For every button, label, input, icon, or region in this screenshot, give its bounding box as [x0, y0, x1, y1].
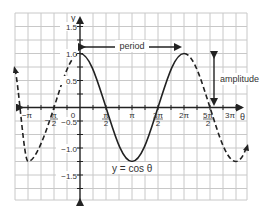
- cosine-graph: period amplitude y θ 1.5 1.0 0.5 −0.5 −1…: [0, 0, 267, 209]
- svg-text:−1.0: −1.0: [61, 145, 77, 154]
- svg-text:−π: −π: [22, 111, 33, 120]
- svg-text:−1.5: −1.5: [61, 172, 77, 181]
- svg-text:2: 2: [156, 119, 161, 128]
- svg-text:2: 2: [206, 119, 211, 128]
- svg-text:π: π: [129, 111, 135, 120]
- x-tick-labels: −π π − 2 0 π 2 π 3π 2 2π 5π 2 3π: [22, 111, 236, 128]
- svg-text:3π: 3π: [225, 111, 235, 120]
- svg-text:0.5: 0.5: [66, 77, 78, 86]
- svg-text:1.0: 1.0: [66, 50, 78, 59]
- x-axis-label: θ: [240, 112, 245, 122]
- svg-text:−: −: [45, 116, 50, 125]
- y-axis-label: y: [71, 13, 76, 23]
- period-label: period: [119, 41, 144, 51]
- svg-text:1.5: 1.5: [66, 23, 78, 32]
- svg-text:2: 2: [52, 119, 57, 128]
- svg-text:0: 0: [71, 111, 76, 120]
- svg-text:2: 2: [104, 119, 109, 128]
- amplitude-label: amplitude: [220, 74, 259, 84]
- function-label: y = cos θ: [112, 163, 153, 174]
- svg-text:2π: 2π: [179, 111, 189, 120]
